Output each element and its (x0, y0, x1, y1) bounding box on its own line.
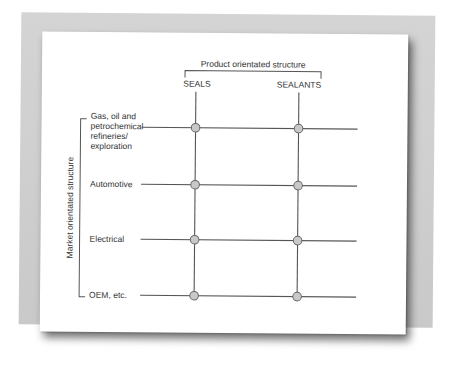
column-line-seals (194, 92, 196, 296)
product-axis-bracket (185, 71, 321, 79)
row-line-gas-oil (142, 127, 358, 129)
node-sealants-gas-oil (294, 124, 303, 133)
market-axis-title: Market orientated structure (64, 157, 75, 259)
node-seals-gas-oil (191, 123, 200, 132)
node-seals-electrical (190, 235, 199, 244)
node-seals-oem (190, 291, 199, 300)
market-axis-bracket (79, 119, 87, 297)
row-label-gas-oil: Gas, oil and petrochemical refineries/ e… (90, 111, 146, 151)
node-sealants-electrical (293, 236, 302, 245)
column-label-seals: SEALS (183, 79, 211, 89)
product-axis-title: Product orientated structure (201, 59, 306, 70)
row-label-oem: OEM, etc. (89, 290, 127, 300)
row-line-automotive (141, 184, 357, 186)
node-sealants-automotive (294, 181, 303, 190)
node-sealants-oem (293, 292, 302, 301)
column-label-sealants: SEALANTS (277, 79, 322, 89)
row-label-automotive: Automotive (90, 179, 133, 189)
node-seals-automotive (191, 180, 200, 189)
column-line-sealants (297, 93, 299, 297)
row-label-electrical: Electrical (90, 234, 125, 244)
matrix-structure-diagram: Product orientated structure SEALS SEALA… (0, 0, 456, 388)
row-line-oem (140, 295, 356, 297)
row-line-electrical (141, 239, 357, 241)
